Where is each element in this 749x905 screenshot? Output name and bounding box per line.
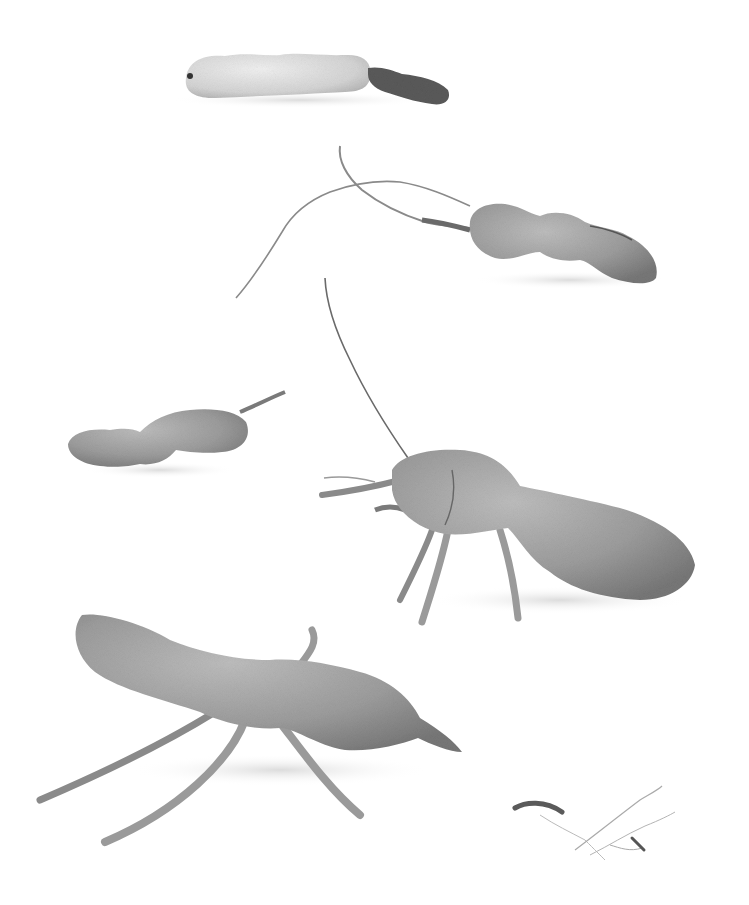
pod-three-seed bbox=[236, 146, 665, 298]
pod-creature-left bbox=[40, 614, 462, 842]
twig-debris bbox=[515, 786, 675, 860]
pod-top bbox=[170, 54, 449, 108]
photo-scene bbox=[0, 0, 749, 905]
pod-creature-right bbox=[322, 278, 695, 622]
pod-small bbox=[68, 392, 285, 478]
